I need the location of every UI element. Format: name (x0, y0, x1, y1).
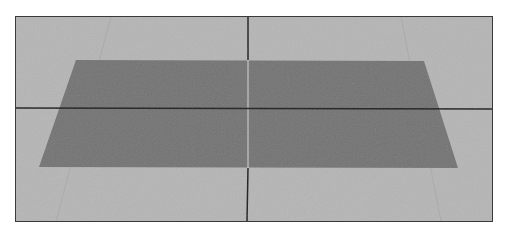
viewport-frame (15, 16, 493, 222)
grain-overlay (16, 17, 492, 221)
scene-canvas (16, 17, 492, 221)
